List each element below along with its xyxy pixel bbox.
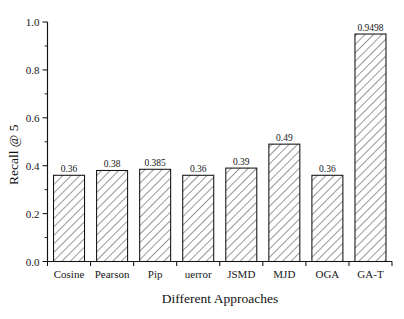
bar <box>140 169 171 261</box>
y-tick-label: 0.0 <box>26 256 40 268</box>
x-category-label: Pip <box>148 268 163 280</box>
bar <box>97 170 128 261</box>
x-category-label: MJD <box>273 268 295 280</box>
bar-value-label: 0.38 <box>104 159 121 169</box>
chart-canvas: 0.00.20.40.60.81.0 0.360.380.3850.360.39… <box>0 0 404 319</box>
bar-value-label: 0.49 <box>276 133 293 143</box>
bar-value-label: 0.39 <box>233 157 250 167</box>
bar <box>54 175 85 261</box>
bar-value-label: 0.36 <box>61 164 78 174</box>
x-category-label: GA-T <box>357 268 384 280</box>
x-category-label: Cosine <box>54 268 85 280</box>
bar <box>312 175 343 261</box>
x-axis-title: Different Approaches <box>162 291 278 306</box>
x-category-label: JSMD <box>227 268 255 280</box>
y-tick-label: 0.2 <box>26 208 40 220</box>
bar-value-label: 0.36 <box>190 164 207 174</box>
x-category-label: uerror <box>185 268 212 280</box>
bar <box>355 34 386 261</box>
y-tick-label: 1.0 <box>26 16 40 28</box>
bar-chart-figure: 0.00.20.40.60.81.0 0.360.380.3850.360.39… <box>0 0 404 319</box>
x-category-label: OGA <box>315 268 339 280</box>
y-tick-label: 0.8 <box>26 64 40 76</box>
y-axis-title: Recall @ 5 <box>6 124 21 185</box>
bar <box>269 144 300 261</box>
x-category-label: Pearson <box>95 268 130 280</box>
bar-value-label: 0.385 <box>144 158 166 168</box>
y-tick-label: 0.6 <box>26 112 40 124</box>
y-tick-label: 0.4 <box>26 160 40 172</box>
bar-value-label: 0.36 <box>319 164 336 174</box>
bar-value-label: 0.9498 <box>357 23 383 33</box>
bar <box>183 175 214 261</box>
bar <box>226 168 257 261</box>
